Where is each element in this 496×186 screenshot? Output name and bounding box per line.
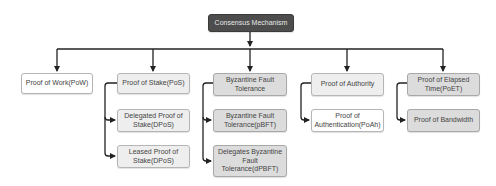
node-label: Proof of Authentication(PoAh) — [314, 112, 380, 129]
node-proof-of-stake: Proof of Stake(PoS) — [117, 73, 190, 94]
node-label: Proof of Authority — [321, 80, 375, 89]
root-node-consensus-mechanism: Consensus Mechanism — [208, 14, 294, 32]
node-proof-of-work: Proof of Work(PoW) — [21, 73, 93, 94]
consensus-mechanism-diagram: Consensus Mechanism Proof of Work(PoW) P… — [0, 0, 496, 186]
node-proof-of-elapsed-time: Proof of Elapsed Time(PoET) — [407, 73, 480, 96]
node-label: Delegated Proof of Stake(DPoS) — [121, 112, 186, 129]
node-pbft: Byzantine Fault Tolerance(pBFT) — [213, 109, 287, 132]
node-byzantine-fault-tolerance: Byzantine Fault Tolerance — [213, 73, 287, 96]
node-label: Proof of Bandwidth — [414, 116, 473, 125]
node-label: Proof of Work(PoW) — [26, 79, 89, 88]
node-label: Proof of Elapsed Time(PoET) — [411, 76, 476, 93]
root-label: Consensus Mechanism — [215, 19, 288, 28]
node-label: Proof of Stake(PoS) — [122, 79, 184, 88]
node-proof-of-bandwidth: Proof of Bandwidth — [407, 109, 480, 132]
node-delegated-proof-of-stake: Delegated Proof of Stake(DPoS) — [117, 109, 190, 132]
node-label: Delegates Byzantine Fault Tolerance(dPBF… — [217, 148, 283, 174]
node-leased-proof-of-stake: Leased Proof of Stake(DPoS) — [117, 145, 190, 168]
node-proof-of-authority: Proof of Authority — [311, 73, 384, 96]
node-label: Byzantine Fault Tolerance — [217, 76, 283, 93]
node-dpbft: Delegates Byzantine Fault Tolerance(dPBF… — [213, 145, 287, 177]
node-label: Leased Proof of Stake(DPoS) — [121, 148, 186, 165]
node-proof-of-authentication: Proof of Authentication(PoAh) — [311, 109, 384, 132]
node-label: Byzantine Fault Tolerance(pBFT) — [217, 112, 283, 129]
